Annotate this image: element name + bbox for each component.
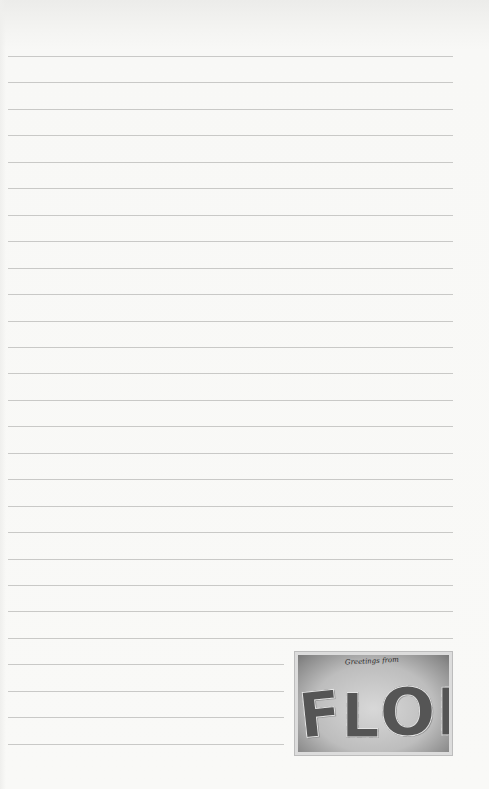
ruled-line <box>8 638 453 639</box>
ruled-line <box>8 188 453 189</box>
ruled-line <box>8 294 453 295</box>
ruled-line <box>8 400 453 401</box>
ruled-line <box>8 109 453 110</box>
ruled-line <box>8 744 284 745</box>
ruled-line <box>8 321 453 322</box>
ruled-line <box>8 559 453 560</box>
florida-postcard-image: F L O R I D A Greetings from <box>295 652 452 755</box>
ruled-line <box>8 347 453 348</box>
ruled-line <box>8 585 453 586</box>
ruled-line <box>8 691 284 692</box>
ruled-line <box>8 506 453 507</box>
ruled-line <box>8 426 453 427</box>
ruled-line <box>8 135 453 136</box>
ruled-line <box>8 268 453 269</box>
ruled-line <box>8 162 453 163</box>
postcard-border <box>295 652 452 755</box>
ruled-line <box>8 453 453 454</box>
ruled-line <box>8 479 453 480</box>
lined-paper: F L O R I D A Greetings from <box>0 0 489 789</box>
ruled-line <box>8 215 453 216</box>
ruled-line <box>8 82 453 83</box>
ruled-line <box>8 373 453 374</box>
ruled-line <box>8 241 453 242</box>
ruled-line <box>8 611 453 612</box>
ruled-line <box>8 56 453 57</box>
ruled-line <box>8 717 284 718</box>
ruled-line <box>8 532 453 533</box>
ruled-line <box>8 664 284 665</box>
